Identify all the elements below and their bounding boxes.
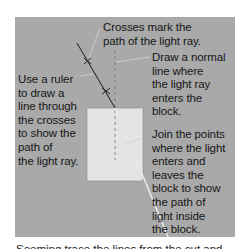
label-ruler: Use a ruler to draw a line through the c… [18, 73, 78, 168]
bottom-text-cut: Seeming trace the lines from the cut and [16, 243, 222, 249]
leader-crosses [89, 28, 100, 58]
label-crosses: Crosses mark the path of the light ray. [103, 21, 201, 48]
leader-ruler [80, 74, 93, 76]
label-normal: Draw a normal line where the light ray e… [152, 51, 225, 119]
leader-normal [116, 57, 150, 62]
label-join: Join the points where the light enters a… [152, 128, 225, 237]
cross-mark-1 [84, 58, 91, 64]
